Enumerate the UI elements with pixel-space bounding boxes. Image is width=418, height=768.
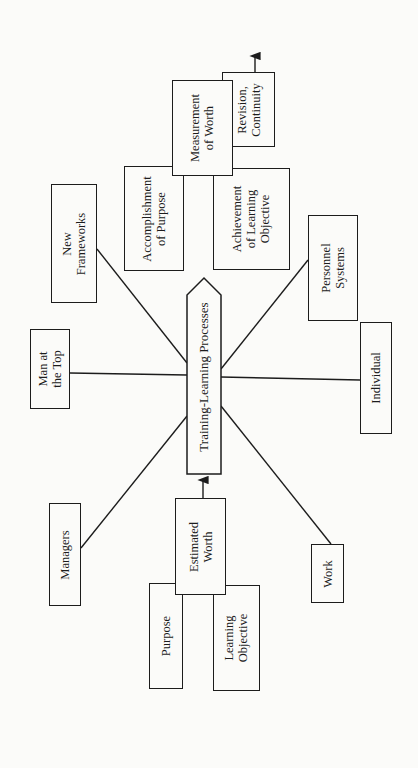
label-line: Work	[321, 560, 335, 587]
spoke-individual	[221, 377, 360, 380]
label-line: Individual	[369, 352, 383, 403]
box-man-at-the-top: Man atthe Top	[30, 329, 70, 409]
label-line: Accomplishment	[140, 176, 154, 261]
box-managers: Managers	[49, 503, 81, 606]
label-line: Learning	[223, 614, 237, 663]
box-personnel-systems: PersonnelSystems	[308, 215, 358, 321]
label-line: Continuity	[249, 83, 263, 136]
box-new-frameworks: NewFrameworks	[51, 184, 97, 303]
label-line: Objective	[258, 186, 272, 253]
label-line: Objective	[237, 614, 251, 663]
center-process-label: Training-Learning Processes	[197, 302, 211, 451]
label-line: New	[60, 212, 74, 275]
label-line: Personnel	[319, 243, 333, 292]
label-line: Frameworks	[74, 212, 88, 275]
label-line: of Worth	[203, 94, 217, 162]
label-line: Revision,	[235, 83, 249, 136]
spoke-managers	[81, 416, 187, 548]
label-line: Managers	[58, 530, 72, 579]
label-line: Worth	[201, 522, 215, 572]
spoke-man-at-the-top	[70, 373, 187, 375]
label-line: Achievement	[230, 186, 244, 253]
label-line: Man at	[36, 350, 50, 387]
center-process: Training-Learning Processes	[187, 280, 221, 474]
label-line: of Purpose	[154, 176, 168, 261]
box-measurement-of-worth: Measurementof Worth	[172, 80, 233, 176]
label-line: Estimated	[187, 522, 201, 572]
box-accomplishment-of-purpose: Accomplishmentof Purpose	[124, 166, 184, 271]
box-work: Work	[311, 544, 344, 603]
box-achievement-of-learning-objective: Achievementof LearningObjective	[213, 168, 290, 270]
label-line: of Learning	[244, 186, 258, 253]
label-line: Systems	[333, 243, 347, 292]
box-learning-objective: LearningObjective	[213, 585, 260, 691]
label-line: Measurement	[189, 94, 203, 162]
box-individual: Individual	[360, 322, 392, 434]
label-line: Purpose	[159, 616, 173, 656]
spoke-work	[221, 406, 331, 544]
box-purpose: Purpose	[149, 583, 183, 689]
label-line: the Top	[50, 350, 64, 387]
box-estimated-worth: EstimatedWorth	[175, 498, 226, 595]
spoke-personnel-systems	[221, 260, 308, 369]
